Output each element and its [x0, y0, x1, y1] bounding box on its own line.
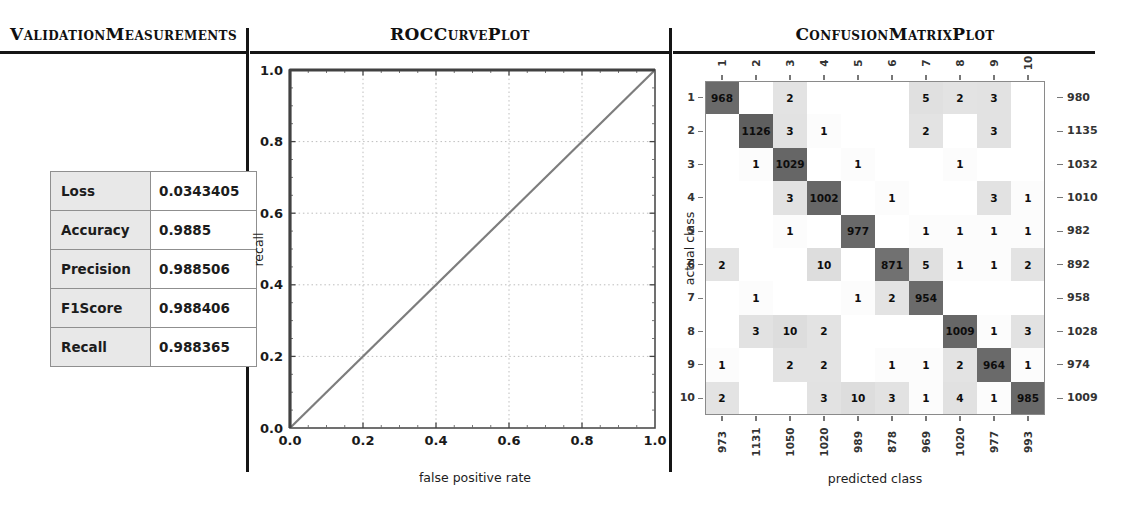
row-total: 1028: [1067, 326, 1107, 338]
right-tick: [1057, 97, 1063, 98]
metric-value: 0.0343405: [151, 172, 257, 211]
row-label: 2: [665, 125, 695, 137]
bottom-tick: [959, 416, 960, 421]
bottom-tick: [993, 416, 994, 421]
metric-row: Precision0.988506: [51, 250, 257, 289]
metric-row: Recall0.988365: [51, 328, 257, 367]
col-total: 1050: [773, 425, 807, 459]
row-total: 980: [1067, 92, 1107, 104]
left-tick: [698, 97, 703, 98]
right-tick: [1057, 264, 1063, 265]
left-tick: [698, 197, 703, 198]
left-tick: [698, 331, 703, 332]
col-label: 5: [848, 53, 868, 73]
figure-canvas: ValidationMeasurements ROCCurvePlot Conf…: [0, 0, 1122, 513]
left-tick: [698, 164, 703, 165]
col-total: 977: [977, 425, 1011, 459]
header-rule-roc: [250, 51, 670, 54]
top-tick: [755, 75, 756, 80]
col-label: 4: [814, 53, 834, 73]
bottom-tick: [925, 416, 926, 421]
x-tick-label: 0.6: [497, 433, 520, 448]
top-tick: [993, 75, 994, 80]
validation-table-body: Loss0.0343405Accuracy0.9885Precision0.98…: [51, 172, 257, 367]
metric-label: Precision: [51, 250, 151, 289]
y-tick-label: 0.2: [260, 349, 283, 364]
matrix-frame: [705, 81, 1045, 415]
metric-label: Accuracy: [51, 211, 151, 250]
metric-value: 0.988365: [151, 328, 257, 367]
roc-x-axis-label: false positive rate: [290, 470, 660, 485]
top-tick: [721, 75, 722, 80]
col-label: 10: [1018, 53, 1038, 73]
right-tick: [1057, 197, 1063, 198]
row-label: 8: [665, 326, 695, 338]
header-rule-validation: [0, 51, 247, 54]
confusion-matrix-plot: actual class predicted class 96825231126…: [675, 56, 1122, 511]
row-total: 1032: [1067, 159, 1107, 171]
metric-value: 0.988406: [151, 289, 257, 328]
metric-row: Accuracy0.9885: [51, 211, 257, 250]
diagonal-reference-line: [290, 70, 655, 428]
row-total: 1135: [1067, 125, 1107, 137]
right-tick: [1057, 364, 1063, 365]
top-tick: [823, 75, 824, 80]
right-tick: [1057, 331, 1063, 332]
col-total: 1020: [807, 425, 841, 459]
row-label: 4: [665, 192, 695, 204]
col-label: 8: [950, 53, 970, 73]
bottom-tick: [1027, 416, 1028, 421]
col-total: 1020: [943, 425, 977, 459]
col-label: 1: [712, 53, 732, 73]
row-label: 9: [665, 359, 695, 371]
col-total: 1131: [739, 425, 773, 459]
bottom-tick: [789, 416, 790, 421]
roc-y-axis-label: recall: [251, 210, 266, 290]
col-total: 989: [841, 425, 875, 459]
col-total: 993: [1011, 425, 1045, 459]
right-tick: [1057, 298, 1063, 299]
left-tick: [698, 398, 703, 399]
roc-curve-plot: 0.00.20.40.60.81.00.00.20.40.60.81.0: [250, 56, 672, 466]
roc-panel-title: ROCCurvePlot: [250, 24, 670, 44]
bottom-tick: [857, 416, 858, 421]
row-label: 5: [665, 225, 695, 237]
top-tick: [1027, 75, 1028, 80]
metric-row: Loss0.0343405: [51, 172, 257, 211]
left-tick: [698, 264, 703, 265]
top-tick: [959, 75, 960, 80]
row-label: 3: [665, 159, 695, 171]
metric-row: F1Score0.988406: [51, 289, 257, 328]
col-label: 9: [984, 53, 1004, 73]
x-tick-label: 1.0: [643, 433, 666, 448]
right-tick: [1057, 131, 1063, 132]
y-tick-label: 0.0: [260, 421, 283, 436]
confusion-y-axis-label: actual class: [682, 209, 697, 289]
row-label: 7: [665, 292, 695, 304]
x-tick-label: 0.2: [351, 433, 374, 448]
row-total: 974: [1067, 359, 1107, 371]
bottom-tick: [823, 416, 824, 421]
row-total: 982: [1067, 225, 1107, 237]
row-total: 958: [1067, 292, 1107, 304]
right-tick: [1057, 398, 1063, 399]
top-tick: [857, 75, 858, 80]
right-tick: [1057, 231, 1063, 232]
metric-value: 0.988506: [151, 250, 257, 289]
top-tick: [789, 75, 790, 80]
left-tick: [698, 231, 703, 232]
metric-label: Loss: [51, 172, 151, 211]
right-tick: [1057, 164, 1063, 165]
col-label: 3: [780, 53, 800, 73]
row-total: 1009: [1067, 392, 1107, 404]
y-tick-label: 0.8: [260, 134, 283, 149]
metric-label: F1Score: [51, 289, 151, 328]
left-tick: [698, 298, 703, 299]
confusion-panel-title: ConfusionMatrixPlot: [673, 24, 1117, 44]
bottom-tick: [721, 416, 722, 421]
row-label: 10: [665, 392, 695, 404]
bottom-tick: [755, 416, 756, 421]
x-tick-label: 0.4: [424, 433, 447, 448]
y-tick-label: 1.0: [260, 63, 283, 78]
metric-value: 0.9885: [151, 211, 257, 250]
